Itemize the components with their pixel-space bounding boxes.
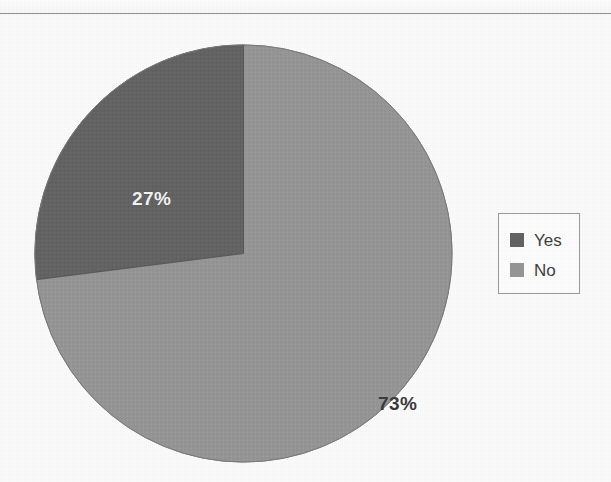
legend-label-no: No bbox=[534, 262, 556, 279]
page-top-margin bbox=[0, 0, 611, 12]
pie-label-no: 73% bbox=[378, 393, 417, 415]
legend-item-no[interactable]: No bbox=[510, 255, 579, 285]
pie-chart: 27% 73% bbox=[34, 44, 453, 463]
chart-legend: Yes No bbox=[498, 213, 580, 294]
legend-swatch-yes-icon bbox=[510, 233, 524, 247]
chart-page: 27% 73% Yes No bbox=[0, 0, 611, 482]
pie-slice-yes[interactable] bbox=[35, 45, 244, 280]
legend-swatch-no-icon bbox=[510, 263, 524, 277]
legend-label-yes: Yes bbox=[534, 232, 562, 249]
top-horizontal-rule bbox=[0, 13, 611, 14]
pie-label-yes: 27% bbox=[132, 188, 171, 210]
legend-item-yes[interactable]: Yes bbox=[510, 225, 579, 255]
